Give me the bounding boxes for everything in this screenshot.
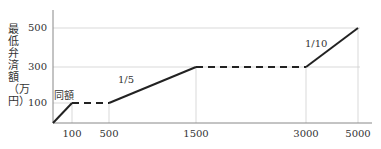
- y-tick-100: 100: [28, 97, 47, 108]
- x-tick-5000: 5000: [345, 128, 370, 139]
- x-tick-100: 100: [62, 128, 81, 139]
- x-tick-3000: 3000: [293, 128, 318, 139]
- annotation-same-amount: 同額: [54, 89, 74, 101]
- chart-canvas: 500 300 100 100 500 1500 3000 5000 同額 1/…: [0, 0, 381, 149]
- y-tick-300: 300: [28, 61, 47, 72]
- x-tick-500: 500: [99, 128, 118, 139]
- chart: 最低弁済額（万円） 500 300 1: [0, 0, 381, 149]
- y-tick-500: 500: [28, 22, 47, 33]
- x-tick-1500: 1500: [183, 128, 208, 139]
- annotation-one-tenth: 1/10: [305, 38, 327, 49]
- annotation-one-fifth: 1/5: [118, 74, 134, 85]
